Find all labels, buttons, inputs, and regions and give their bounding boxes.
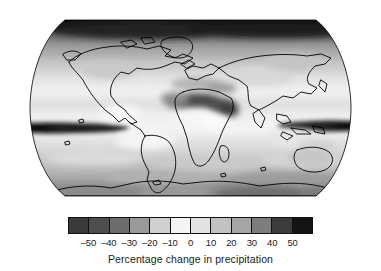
colorbar-tick-label: –50 [81,236,96,249]
colorbar-cell [293,218,312,233]
colorbar-tick-labels: –50–40–30–20–1001020304050 [68,236,313,249]
colorbar-cell [191,218,211,233]
colorbar-tick-label: 10 [206,236,216,249]
colorbar-cell [252,218,272,233]
colorbar[interactable] [68,217,313,234]
colorbar-cell [150,218,170,233]
colorbar-cell [232,218,252,233]
colorbar-tick-label: –20 [142,236,157,249]
colorbar-tick-label: –30 [122,236,137,249]
colorbar-cell [130,218,150,233]
colorbar-cell [211,218,231,233]
arctic-anomaly [25,18,356,39]
colorbar-tick-label: 20 [226,236,236,249]
colorbar-cell [171,218,191,233]
colorbar-tick-label: 40 [267,236,277,249]
precipitation-change-figure: –50–40–30–20–1001020304050 Percentage ch… [0,0,381,271]
map-canvas [25,18,356,198]
colorbar-tick-label: 0 [188,236,193,249]
colorbar-block: –50–40–30–20–1001020304050 [68,217,313,249]
colorbar-cell [69,218,89,233]
colorbar-cell [272,218,292,233]
colorbar-caption: Percentage change in precipitation [0,253,381,265]
colorbar-tick-label: 50 [287,236,297,249]
colorbar-tick-label: 30 [247,236,257,249]
colorbar-tick-label: –10 [162,236,177,249]
colorbar-cell [110,218,130,233]
colorbar-cell [89,218,109,233]
world-map [25,18,356,198]
colorbar-tick-label: –40 [101,236,116,249]
